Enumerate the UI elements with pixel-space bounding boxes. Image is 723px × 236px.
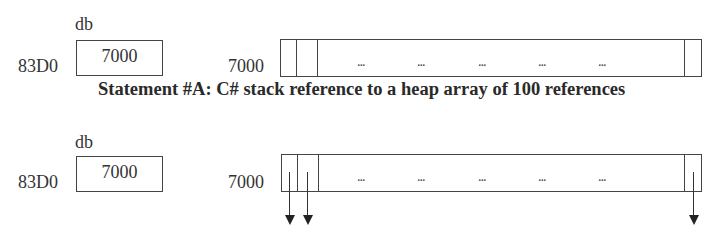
cell-divider (318, 155, 319, 191)
ellipsis: ... (478, 54, 486, 70)
ellipsis: ... (478, 169, 486, 185)
ellipsis: ... (357, 169, 365, 185)
ellipsis: ... (357, 54, 365, 70)
stack-address-label: 83D0 (18, 56, 58, 77)
cell-divider (296, 40, 297, 76)
cell-divider (297, 155, 298, 191)
statement-a-caption: Statement #A: C# stack reference to a he… (98, 79, 625, 100)
heap-array: ... ... ... ... ... (281, 154, 702, 192)
heap-address-label: 7000 (228, 172, 264, 193)
ellipsis: ... (598, 54, 606, 70)
variable-name-label: db (75, 14, 93, 35)
heap-address-label: 7000 (228, 56, 264, 77)
ellipsis: ... (417, 54, 425, 70)
stack-cell: 7000 (76, 156, 163, 192)
cell-divider (684, 40, 685, 76)
stack-cell-value: 7000 (77, 162, 162, 183)
variable-name-label: db (75, 132, 93, 153)
ellipsis: ... (538, 54, 546, 70)
cell-divider (684, 155, 685, 191)
ellipsis: ... (598, 169, 606, 185)
stack-address-label: 83D0 (18, 172, 58, 193)
cell-divider (317, 40, 318, 76)
stack-cell-value: 7000 (77, 46, 162, 67)
ellipsis: ... (538, 169, 546, 185)
heap-array: ... ... ... ... ... (280, 39, 702, 77)
stack-cell: 7000 (76, 40, 163, 76)
ellipsis: ... (417, 169, 425, 185)
